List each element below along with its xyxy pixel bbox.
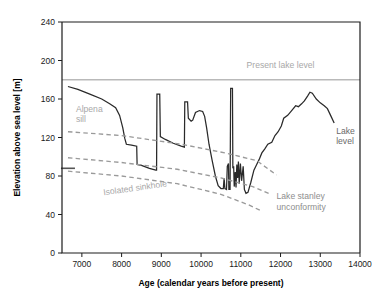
y-tick-label: 80 (46, 171, 56, 181)
annotation-line: sill (76, 114, 86, 124)
annotation-line: Present lake level (247, 60, 315, 70)
y-tick-label: 0 (50, 248, 55, 258)
plot-area (62, 22, 360, 253)
x-tick-label: 9000 (152, 259, 171, 269)
y-axis-title: Elevation above sea level [m] (12, 78, 22, 196)
x-tick-label: 10000 (189, 259, 213, 269)
annotation-line: level (336, 136, 354, 146)
annotation-line: unconformity (277, 202, 327, 212)
x-axis-title: Age (calendar years before present) (138, 278, 283, 288)
y-tick-label: 40 (46, 210, 56, 220)
y-tick-label: 200 (41, 56, 55, 66)
annotation-line: Lake stanley (277, 191, 326, 201)
x-tick-label: 7000 (72, 259, 91, 269)
chart-figure: 0408012016020024070008000900010000110001… (0, 0, 384, 300)
annotation-lake-stanley-unconformity: Lake stanleyunconformity (277, 191, 327, 212)
x-tick-label: 12000 (269, 259, 293, 269)
annotation-present-lake-level: Present lake level (247, 60, 315, 70)
x-tick-label: 14000 (348, 259, 372, 269)
x-tick-label: 13000 (308, 259, 332, 269)
annotation-lake-level: Lakelevel (336, 126, 355, 147)
y-tick-label: 240 (41, 17, 55, 27)
x-tick-label: 8000 (112, 259, 131, 269)
plot-background (62, 22, 360, 253)
annotation-line: Alpena (76, 104, 103, 114)
lake-level-chart: 0408012016020024070008000900010000110001… (0, 0, 384, 300)
annotation-line: Lake (336, 126, 355, 136)
y-tick-label: 160 (41, 94, 55, 104)
x-tick-label: 11000 (229, 259, 252, 269)
y-tick-label: 120 (41, 133, 55, 143)
